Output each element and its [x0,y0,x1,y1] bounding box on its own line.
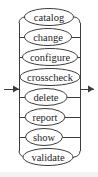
railroad-diagram-canvas: catalogchangeconfigurecrosscheckdeletere… [0,0,98,177]
terminal-configure[interactable]: configure [23,49,78,66]
terminal-label-delete: delete [33,92,58,103]
terminal-label-catalog: catalog [34,12,65,23]
terminal-catalog[interactable]: catalog [25,9,74,26]
terminal-label-show: show [33,132,56,143]
corner-top-right [74,17,80,23]
railroad-diagram: catalogchangeconfigurecrosscheckdeletere… [0,0,98,177]
exit-arrow-icon [88,86,94,93]
terminal-label-change: change [33,32,63,43]
terminal-label-validate: validate [31,152,65,163]
terminal-validate[interactable]: validate [23,149,73,166]
terminal-label-configure: configure [30,52,71,63]
terminal-group: catalogchangeconfigurecrosscheckdeletere… [20,9,80,166]
terminal-crosscheck[interactable]: crosscheck [20,69,80,86]
terminal-label-crosscheck: crosscheck [27,72,74,83]
corner-top-left [19,17,25,23]
terminal-label-report: report [32,112,57,123]
corner-bottom-right [74,151,80,157]
terminal-report[interactable]: report [25,109,65,126]
bottom-margin-strip [0,172,98,177]
terminal-show[interactable]: show [26,129,63,146]
terminal-change[interactable]: change [25,29,72,46]
terminal-delete[interactable]: delete [25,89,67,106]
entry-arrow-icon [13,86,19,93]
